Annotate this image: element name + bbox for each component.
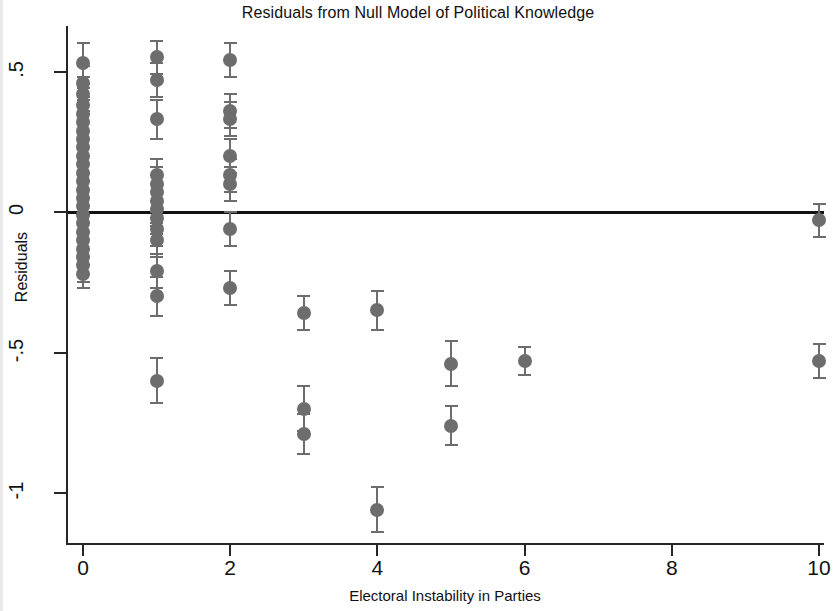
data-point-marker	[150, 233, 164, 247]
error-bar-cap-upper	[445, 405, 458, 407]
data-point-marker	[444, 419, 458, 433]
error-bar-cap-upper	[77, 231, 90, 233]
x-tick-label: 8	[642, 556, 702, 580]
data-point-marker	[223, 281, 237, 295]
error-bar-cap-upper	[297, 413, 310, 415]
error-bar-cap-upper	[445, 340, 458, 342]
error-bar-cap-upper	[77, 248, 90, 250]
error-bar-cap-upper	[224, 93, 237, 95]
error-bar-cap-upper	[224, 166, 237, 168]
zero-reference-line	[68, 211, 824, 214]
error-bar-cap-upper	[77, 155, 90, 157]
x-tick-mark	[671, 545, 673, 556]
error-bar-cap-upper	[150, 211, 163, 213]
error-bar-cap-upper	[77, 189, 90, 191]
error-bar-cap-upper	[224, 42, 237, 44]
error-bar-cap-upper	[150, 183, 163, 185]
error-bar-cap-upper	[77, 163, 90, 165]
error-bar-cap-lower	[445, 385, 458, 387]
error-bar-cap-lower	[297, 329, 310, 331]
y-axis-line	[66, 26, 68, 544]
error-bar-cap-upper	[77, 239, 90, 241]
x-tick-label: 10	[789, 556, 836, 580]
error-bar-cap-upper	[297, 295, 310, 297]
error-bar-cap-lower	[224, 245, 237, 247]
plot-area: .50-.5-10246810	[0, 0, 836, 611]
error-bar-cap-upper	[371, 290, 384, 292]
error-bar-cap-upper	[150, 40, 163, 42]
x-tick-mark	[818, 545, 820, 556]
error-bar-cap-upper	[150, 253, 163, 255]
error-bar-cap-upper	[77, 42, 90, 44]
x-tick-label: 2	[200, 556, 260, 580]
data-point-marker	[223, 112, 237, 126]
data-point-marker	[223, 177, 237, 191]
error-bar-cap-upper	[150, 99, 163, 101]
error-bar-cap-upper	[77, 214, 90, 216]
y-tick-mark	[54, 71, 67, 73]
error-bar-cap-lower	[518, 374, 531, 376]
error-bar-cap-lower	[371, 531, 384, 533]
error-bar-cap-upper	[224, 158, 237, 160]
error-bar-cap-upper	[77, 197, 90, 199]
data-point-marker	[150, 112, 164, 126]
error-bar-cap-lower	[150, 96, 163, 98]
y-axis-title: Residuals	[13, 187, 31, 347]
data-point-marker	[812, 213, 826, 227]
error-bar-cap-lower	[224, 76, 237, 78]
error-bar-cap-upper	[77, 87, 90, 89]
data-point-marker	[444, 357, 458, 371]
error-bar-cap-upper	[518, 346, 531, 348]
data-point-marker	[223, 222, 237, 236]
error-bar-cap-lower	[297, 453, 310, 455]
error-bar-cap-upper	[77, 130, 90, 132]
error-bar-cap-upper	[150, 357, 163, 359]
error-bar-cap-lower	[371, 329, 384, 331]
data-point-marker	[223, 53, 237, 67]
chart-figure: Residuals from Null Model of Political K…	[0, 0, 836, 611]
data-point-marker	[150, 73, 164, 87]
x-axis-title: Electoral Instability in Parties	[66, 587, 824, 604]
error-bar-cap-upper	[813, 203, 826, 205]
error-bar-cap-upper	[77, 76, 90, 78]
data-point-marker	[150, 374, 164, 388]
error-bar-cap-upper	[150, 174, 163, 176]
data-point-marker	[297, 306, 311, 320]
error-bar-cap-lower	[445, 444, 458, 446]
y-tick-label: .5	[5, 39, 28, 99]
error-bar-cap-upper	[77, 205, 90, 207]
data-point-marker	[150, 289, 164, 303]
error-bar-cap-lower	[224, 304, 237, 306]
x-tick-label: 6	[495, 556, 555, 580]
error-bar-cap-upper	[77, 121, 90, 123]
y-tick-mark	[54, 352, 67, 354]
error-bar-cap-upper	[150, 158, 163, 160]
error-bar-cap-upper	[224, 138, 237, 140]
x-tick-mark	[229, 545, 231, 556]
error-bar-cap-upper	[150, 166, 163, 168]
error-bar-cap-lower	[224, 200, 237, 202]
error-bar-cap-lower	[150, 138, 163, 140]
x-tick-mark	[524, 545, 526, 556]
y-tick-mark	[54, 211, 67, 213]
error-bar-cap-upper	[150, 62, 163, 64]
error-bar-cap-upper	[150, 191, 163, 193]
error-bar-cap-upper	[77, 180, 90, 182]
data-point-marker	[76, 267, 90, 281]
error-bar-cap-lower	[77, 287, 90, 289]
error-bar-cap-upper	[150, 276, 163, 278]
error-bar-cap-upper	[224, 270, 237, 272]
data-point-marker	[812, 354, 826, 368]
error-bar-cap-upper	[224, 211, 237, 213]
x-tick-label: 4	[347, 556, 407, 580]
error-bar-cap-lower	[150, 402, 163, 404]
error-bar-cap-upper	[77, 222, 90, 224]
error-bar-cap-upper	[150, 222, 163, 224]
error-bar-cap-upper	[224, 101, 237, 103]
error-bar-cap-upper	[77, 256, 90, 258]
error-bar-cap-lower	[150, 315, 163, 317]
error-bar-cap-upper	[77, 96, 90, 98]
x-tick-mark	[376, 545, 378, 556]
error-bar-cap-upper	[77, 146, 90, 148]
y-tick-label: -1	[5, 461, 28, 521]
